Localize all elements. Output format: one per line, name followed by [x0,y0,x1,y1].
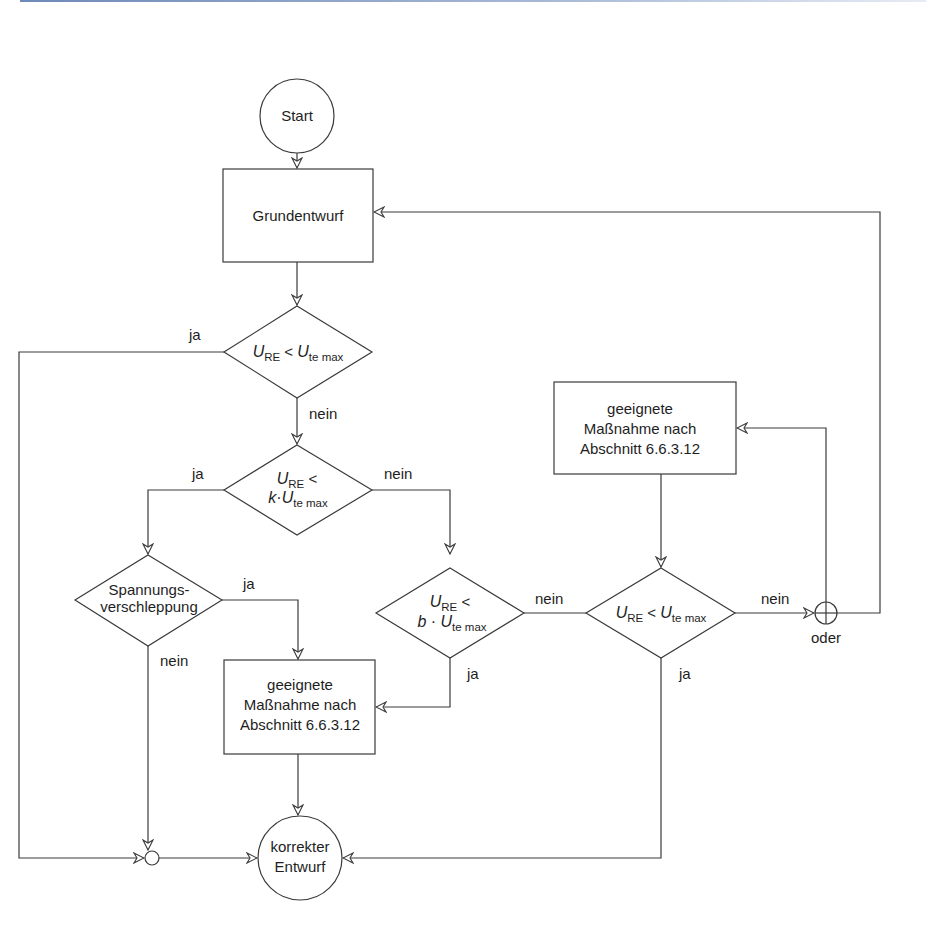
decision-right-node: URE < Ute max [586,568,735,658]
label-d2-yes: ja [191,465,204,482]
end-line2: Entwurf [275,858,327,875]
massnahme-right-line3: Abschnitt 6.6.3.12 [580,440,700,457]
massnahme-right-line1: geeignete [607,400,673,417]
start-node: Start [260,79,334,153]
edge-d2-yes-spannung [148,490,224,554]
massnahme-center-line2: Maßnahme nach [244,696,357,713]
oder-node: oder [811,602,841,646]
edge-oder-massnahme-right [737,428,826,602]
edge-d2-no-db [372,490,450,554]
spannung-line1: Spannungs- [109,581,190,598]
end-node: korrekter Entwurf [258,816,342,900]
label-span-yes: ja [242,575,255,592]
spannungsverschleppung-node: Spannungs- verschleppung [75,555,222,646]
edge-db-yes-massnahme [376,646,450,707]
end-line1: korrekter [270,838,329,855]
grundentwurf-node: Grundentwurf [223,169,373,262]
start-label: Start [281,107,314,124]
label-d2-no: nein [384,465,412,482]
label-dr-yes: ja [678,665,691,682]
massnahme-right-line2: Maßnahme nach [584,420,697,437]
massnahme-right-node: geeignete Maßnahme nach Abschnitt 6.6.3.… [554,382,736,474]
spannung-line2: verschleppung [100,598,198,615]
label-d1-yes: ja [188,326,201,343]
label-db-yes: ja [466,665,479,682]
grundentwurf-label: Grundentwurf [253,207,345,224]
label-span-no: nein [160,652,188,669]
massnahme-center-line1: geeignete [267,676,333,693]
massnahme-center-line3: Abschnitt 6.6.3.12 [240,716,360,733]
label-dr-no: nein [761,590,789,607]
edge-dright-yes-end [343,658,661,858]
massnahme-center-node: geeignete Maßnahme nach Abschnitt 6.6.3.… [224,660,375,754]
oder-label: oder [811,629,841,646]
decision-2-node: URE < k·Ute max [224,445,372,535]
label-d1-no: nein [309,405,337,422]
decision-1-node: URE < Ute max [224,306,372,398]
junction-node [145,851,159,865]
decision-b-node: URE < b · Ute max [376,568,524,658]
label-db-no: nein [535,590,563,607]
edge-span-yes-massnahme [222,600,298,659]
flowchart: Start Grundentwurf URE < Ute max URE < k… [0,0,926,934]
